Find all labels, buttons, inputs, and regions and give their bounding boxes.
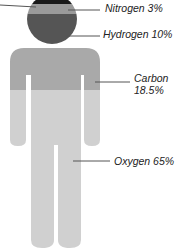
oxygen-label: Oxygen 65% [114,155,174,167]
other-leader-line [0,5,36,7]
nitrogen-label: Nitrogen 3% [105,2,163,14]
oxygen-segment [0,90,179,250]
carbon-value: 18.5% [134,84,164,96]
hydrogen-label: Hydrogen 10% [103,28,172,40]
carbon-label: Carbon [134,72,168,84]
